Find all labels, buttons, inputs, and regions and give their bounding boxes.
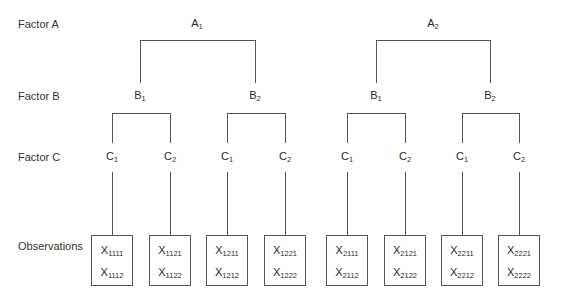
factor-b-node: B2 [484, 89, 496, 103]
observation-box: X2211X2212 [441, 235, 483, 286]
bracket-line [347, 113, 406, 114]
connector-line [347, 172, 348, 235]
connector-line [490, 40, 491, 83]
row-label-factor-b: Factor B [18, 90, 60, 102]
factor-b-node: B1 [134, 89, 146, 103]
observation-value: X1222 [265, 266, 305, 280]
connector-line [227, 113, 228, 143]
observation-value: X2121 [385, 244, 425, 258]
row-label-observations: Observations [18, 240, 83, 252]
row-label-factor-c: Factor C [18, 151, 60, 163]
connector-line [376, 40, 377, 83]
observation-value: X1121 [150, 244, 190, 258]
observation-value: X1112 [92, 266, 132, 280]
observation-value: X2122 [385, 266, 425, 280]
observation-value: X1221 [265, 244, 305, 258]
observation-value: X1212 [207, 266, 247, 280]
observation-value: X2221 [499, 244, 539, 258]
factor-c-node: C2 [279, 150, 291, 164]
bracket-line [140, 40, 256, 41]
observation-value: X2211 [442, 244, 482, 258]
bracket-line [112, 113, 171, 114]
bracket-line [462, 113, 520, 114]
factor-a-node: A1 [191, 17, 203, 31]
factor-c-node: C1 [456, 150, 468, 164]
connector-line [462, 172, 463, 235]
observation-box: X1221X1222 [264, 235, 306, 286]
observation-value: X2112 [327, 266, 367, 280]
connector-line [462, 113, 463, 143]
factor-c-node: C2 [164, 150, 176, 164]
observation-value: X2222 [499, 266, 539, 280]
connector-line [519, 113, 520, 143]
connector-line [347, 113, 348, 143]
observation-value: X1122 [150, 266, 190, 280]
connector-line [112, 172, 113, 235]
row-label-factor-a: Factor A [18, 18, 59, 30]
connector-line [227, 172, 228, 235]
connector-line [140, 40, 141, 83]
bracket-line [376, 40, 491, 41]
factor-c-node: C1 [221, 150, 233, 164]
factor-c-node: C1 [106, 150, 118, 164]
observation-box: X1121X1122 [149, 235, 191, 286]
observation-value: X2212 [442, 266, 482, 280]
observation-box: X2111X2112 [326, 235, 368, 286]
observation-value: X2111 [327, 244, 367, 258]
observation-value: X1111 [92, 244, 132, 258]
observation-value: X1211 [207, 244, 247, 258]
connector-line [170, 172, 171, 235]
factor-c-node: C2 [399, 150, 411, 164]
connector-line [285, 172, 286, 235]
observation-box: X2121X2122 [384, 235, 426, 286]
observation-box: X1111X1112 [91, 235, 133, 286]
factor-c-node: C2 [513, 150, 525, 164]
connector-line [519, 172, 520, 235]
factor-c-node: C1 [341, 150, 353, 164]
connector-line [255, 40, 256, 83]
connector-line [405, 113, 406, 143]
factor-b-node: B1 [370, 89, 382, 103]
factor-b-node: B2 [249, 89, 261, 103]
connector-line [112, 113, 113, 143]
connector-line [405, 172, 406, 235]
observation-box: X2221X2222 [498, 235, 540, 286]
factor-a-node: A2 [427, 17, 439, 31]
connector-line [170, 113, 171, 143]
connector-line [285, 113, 286, 143]
bracket-line [227, 113, 286, 114]
observation-box: X1211X1212 [206, 235, 248, 286]
